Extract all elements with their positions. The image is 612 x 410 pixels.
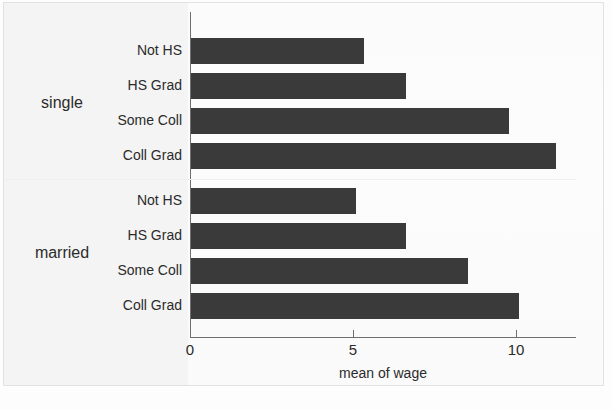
x-axis-tick-label: 0 bbox=[186, 341, 194, 358]
panel-label-single: single bbox=[6, 94, 118, 112]
category-label: Not HS bbox=[62, 42, 182, 58]
category-label: Coll Grad bbox=[62, 147, 182, 163]
category-label: HS Grad bbox=[62, 227, 182, 243]
x-axis-tick bbox=[353, 330, 354, 338]
x-axis-tick bbox=[516, 330, 517, 338]
category-label: Some Coll bbox=[62, 112, 182, 128]
bar bbox=[191, 73, 406, 99]
bar bbox=[191, 188, 356, 214]
x-axis-title: mean of wage bbox=[190, 365, 576, 381]
x-axis-tick-label: 10 bbox=[508, 341, 525, 358]
bar bbox=[191, 38, 364, 64]
bar bbox=[191, 293, 519, 319]
panel-label-married: married bbox=[6, 244, 118, 262]
category-label: HS Grad bbox=[62, 77, 182, 93]
x-axis-tick bbox=[190, 330, 191, 338]
x-axis-tick-label: 5 bbox=[349, 341, 357, 358]
bar bbox=[191, 258, 468, 284]
bar-chart-figure: 0510 Not HSHS GradSome CollColl GradNot … bbox=[0, 0, 612, 410]
x-axis-spine bbox=[190, 337, 576, 338]
bar bbox=[191, 223, 406, 249]
category-label: Coll Grad bbox=[62, 297, 182, 313]
category-label: Some Coll bbox=[62, 262, 182, 278]
panel-separator bbox=[4, 179, 576, 180]
category-label: Not HS bbox=[62, 192, 182, 208]
bar bbox=[191, 143, 556, 169]
bar bbox=[191, 108, 509, 134]
